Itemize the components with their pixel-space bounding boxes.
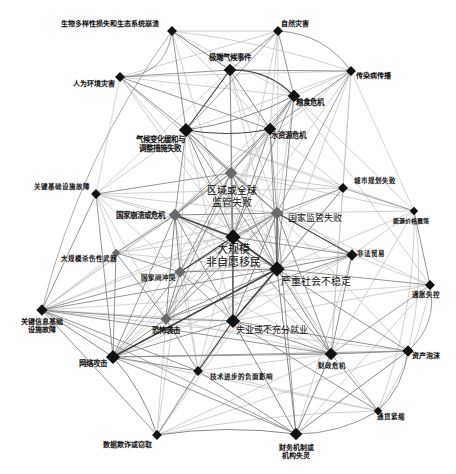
edge-water_crisis-global_governance bbox=[231, 129, 270, 173]
edge-biodiversity-climate_failure bbox=[172, 31, 186, 130]
edge-inflation-critical_info_infra bbox=[42, 285, 430, 310]
edge-cyber_attack-tech_negative bbox=[113, 357, 198, 371]
edge-extreme_weather-water_crisis bbox=[230, 70, 270, 129]
edge-state_collapse-tech_negative bbox=[175, 215, 198, 371]
edge-illicit_trade-social_instability bbox=[277, 255, 352, 269]
edge-energy_price-food_crisis bbox=[294, 96, 414, 211]
node-label-asset-bubble: 资产泡沫 bbox=[412, 352, 440, 360]
node-label-unemployment: 失业或不充分就业 bbox=[236, 325, 308, 335]
edge-energy_price-deflation bbox=[378, 211, 414, 411]
edge-water_crisis-terrorism bbox=[166, 129, 270, 319]
node-label-financial-failure: 财务机制或 机构失灵 bbox=[279, 444, 314, 460]
node-label-deflation: 通货紧缩 bbox=[377, 414, 405, 421]
node-label-data-fraud: 数据欺诈或窃取 bbox=[103, 441, 152, 449]
edge-asset_bubble-data_fraud bbox=[157, 351, 408, 435]
edge-critical_infra-extreme_weather bbox=[96, 70, 230, 194]
node-label-energy-price: 能源价格震荡 bbox=[393, 218, 429, 225]
edge-urban_planning-energy_price bbox=[343, 188, 414, 211]
node-label-global-governance: 区域或全球 监管失败 bbox=[207, 185, 257, 208]
edge-unemployment-tech_negative bbox=[198, 321, 233, 371]
edge-data_fraud-financial_failure bbox=[157, 429, 296, 435]
edge-natural_disaster-infectious_disease bbox=[278, 31, 351, 71]
edge-fiscal_crisis-tech_negative bbox=[198, 354, 331, 371]
node-label-critical-info-infra: 关键信息基础 设施故障 bbox=[21, 318, 63, 334]
node-label-tech-negative: 技术进步的负面影响 bbox=[210, 374, 273, 381]
node-label-manmade-env: 人为环境灾害 bbox=[73, 80, 115, 88]
risk-network-diagram: 生物多样性损失和生态系统崩溃自然灾害极端气候事件传染病传播人为环境灾害粮食危机水… bbox=[0, 0, 456, 474]
node-label-urban-planning: 城市规划失败 bbox=[354, 178, 396, 185]
edge-national_governance-cyber_attack bbox=[113, 213, 277, 357]
edge-asset_bubble-deflation bbox=[378, 351, 408, 411]
edge-energy_price-infectious_disease bbox=[351, 71, 414, 211]
edge-manmade_env-climate_failure bbox=[120, 77, 186, 130]
node-label-food-crisis: 粮食危机 bbox=[296, 99, 324, 108]
edge-cyber_attack-asset_bubble bbox=[113, 351, 408, 357]
node-label-wmd: 大规模杀伤性武器 bbox=[61, 256, 117, 263]
edge-biodiversity-extreme_weather bbox=[172, 31, 230, 70]
edge-biodiversity-manmade_env bbox=[120, 31, 172, 77]
node-label-infectious-disease: 传染病传播 bbox=[356, 72, 391, 80]
node-label-migration: 大规模 非自愿移民 bbox=[206, 244, 261, 269]
node-label-extreme-weather: 极端气候事件 bbox=[209, 54, 251, 63]
edge-manmade_env-infectious_disease bbox=[120, 71, 351, 77]
node-label-illicit-trade: 非法贸易 bbox=[357, 251, 385, 258]
node-label-biodiversity: 生物多样性损失和生态系统崩溃 bbox=[61, 20, 159, 28]
node-label-cyber-attack: 网络攻击 bbox=[79, 360, 107, 369]
node-label-state-collapse: 国家崩溃或危机 bbox=[116, 212, 165, 221]
edge-cyber_attack-data_fraud bbox=[113, 357, 157, 435]
node-label-terrorism: 恐怖袭击 bbox=[152, 327, 180, 336]
node-label-inflation: 通胀失控 bbox=[412, 292, 440, 299]
node-label-water-crisis: 水资源危机 bbox=[271, 132, 306, 141]
edge-natural_disaster-food_crisis bbox=[278, 31, 294, 96]
node-label-national-governance: 国家监管失败 bbox=[288, 213, 342, 223]
edge-biodiversity-infectious_disease bbox=[172, 31, 351, 71]
node-label-interstate-conflict: 国家间冲突 bbox=[141, 275, 176, 282]
edge-critical_infra-manmade_env bbox=[96, 77, 120, 194]
edge-energy_price-asset_bubble bbox=[408, 211, 419, 351]
node-label-natural-disaster: 自然灾害 bbox=[281, 20, 309, 28]
node-label-fiscal-crisis: 财政危机 bbox=[318, 363, 346, 370]
node-label-critical-infra: 关键基础设施故障 bbox=[34, 184, 90, 191]
node-label-climate-failure: 气候变化缓和与 调整措施失败 bbox=[136, 136, 185, 153]
node-label-social-instability: 严重社会不稳定 bbox=[281, 276, 351, 288]
